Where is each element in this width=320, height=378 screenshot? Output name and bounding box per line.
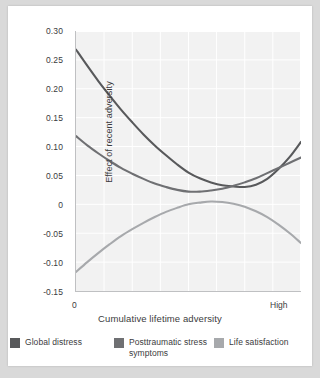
x-tick-label-high: High [270,300,287,310]
chart-legend: Global distress Posttraumatic stress sym… [8,337,312,358]
y-tick-label: -0.15 [17,288,63,296]
y-tick-label: 0.30 [17,27,63,35]
legend-item-label: Posttraumatic stress symptoms [129,337,214,358]
legend-swatch-icon [214,338,224,348]
legend-item-label: Global distress [25,337,82,348]
y-tick-label: 0.15 [17,114,63,122]
legend-item-label: Life satisfaction [229,337,288,348]
plot-wrapper: 0.30 0.25 0.20 0.15 0.10 0.05 0 -0.05 -0… [67,31,301,297]
figure-panel: 0.30 0.25 0.20 0.15 0.10 0.05 0 -0.05 -0… [8,6,312,366]
x-axis-label: Cumulative lifetime adversity [8,313,312,324]
legend-item-global-distress[interactable]: Global distress [10,337,114,348]
y-tick-label: 0.20 [17,85,63,93]
y-tick-label: 0.25 [17,56,63,64]
legend-swatch-icon [10,338,20,348]
y-tick-label: -0.05 [17,230,63,238]
y-tick-label: -0.10 [17,259,63,267]
series-line-life-satisfaction [76,201,301,272]
legend-item-life-satisfaction[interactable]: Life satisfaction [214,337,310,348]
legend-swatch-icon [114,338,124,348]
y-tick-label: 0.10 [17,143,63,151]
y-tick-label: 0.05 [17,172,63,180]
legend-item-posttraumatic-stress-symptoms[interactable]: Posttraumatic stress symptoms [114,337,214,358]
x-tick-label-low: 0 [72,300,77,310]
y-tick-label: 0 [17,201,63,209]
y-axis-label: Effect of recent adversity [104,52,114,212]
